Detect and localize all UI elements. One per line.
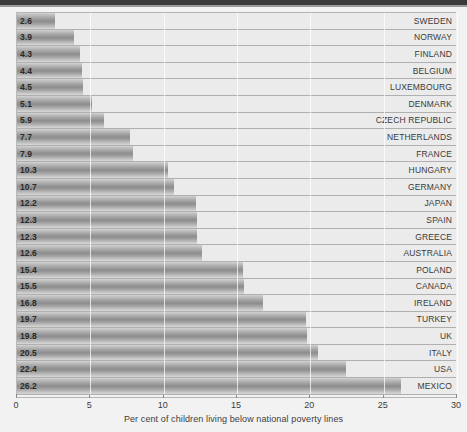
- table-row: 12.3GREECE: [17, 229, 456, 246]
- bar-value-label: 12.6: [20, 248, 37, 258]
- x-tick-label: 30: [451, 400, 461, 410]
- table-row: 15.4POLAND: [17, 262, 456, 279]
- bar: [17, 162, 168, 178]
- x-tick-label: 5: [87, 400, 92, 410]
- table-row: 10.3HUNGARY: [17, 162, 456, 179]
- category-label: JAPAN: [424, 198, 452, 208]
- bar-value-label: 4.3: [20, 49, 32, 59]
- x-tick-label: 0: [13, 400, 18, 410]
- category-label: AUSTRALIA: [403, 248, 452, 258]
- category-label: HUNGARY: [409, 165, 452, 175]
- x-tick-label: 25: [378, 400, 388, 410]
- chart-figure: 2.6SWEDEN3.9NORWAY4.3FINLAND4.4BELGIUM4.…: [0, 0, 467, 432]
- x-tick-label: 20: [304, 400, 314, 410]
- table-row: 5.1DENMARK: [17, 96, 456, 113]
- bar-value-label: 5.1: [20, 99, 32, 109]
- bar-value-label: 26.2: [20, 381, 37, 391]
- bar-value-label: 22.4: [20, 364, 37, 374]
- x-tick-label: 10: [158, 400, 168, 410]
- bar-value-label: 16.8: [20, 298, 37, 308]
- table-row: 19.8UK: [17, 328, 456, 345]
- table-row: 20.5ITALY: [17, 345, 456, 362]
- bar: [17, 262, 243, 278]
- bar-rows: 2.6SWEDEN3.9NORWAY4.3FINLAND4.4BELGIUM4.…: [17, 13, 456, 394]
- table-row: 4.3FINLAND: [17, 46, 456, 63]
- category-label: SPAIN: [426, 215, 452, 225]
- category-label: GREECE: [415, 232, 452, 242]
- category-label: NORWAY: [414, 32, 452, 42]
- bar: [17, 345, 318, 361]
- table-row: 2.6SWEDEN: [17, 13, 456, 30]
- bar: [17, 245, 202, 261]
- bar: [17, 146, 133, 162]
- bar-value-label: 5.9: [20, 115, 32, 125]
- bar: [17, 212, 197, 228]
- bar: [17, 196, 196, 212]
- category-label: TURKEY: [417, 314, 452, 324]
- category-label: ITALY: [429, 348, 452, 358]
- category-label: SWEDEN: [414, 16, 452, 26]
- table-row: 4.5LUXEMBOURG: [17, 79, 456, 96]
- bar: [17, 179, 174, 195]
- category-label: FINLAND: [415, 49, 452, 59]
- category-label: FRANCE: [416, 149, 452, 159]
- category-label: CANADA: [416, 281, 452, 291]
- bar: [17, 129, 130, 145]
- bar-value-label: 10.7: [20, 182, 37, 192]
- table-row: 4.4BELGIUM: [17, 63, 456, 80]
- category-label: IRELAND: [414, 298, 452, 308]
- bar-value-label: 10.3: [20, 165, 37, 175]
- bar-value-label: 19.8: [20, 331, 37, 341]
- bar-value-label: 7.9: [20, 149, 32, 159]
- table-row: 26.2MEXICO: [17, 378, 456, 395]
- bar-value-label: 15.4: [20, 265, 37, 275]
- table-row: 3.9NORWAY: [17, 30, 456, 47]
- table-row: 10.7GERMANY: [17, 179, 456, 196]
- bar-value-label: 20.5: [20, 348, 37, 358]
- x-axis-title: Per cent of children living below nation…: [0, 414, 467, 424]
- category-label: NETHERLANDS: [387, 132, 452, 142]
- bar-value-label: 2.6: [20, 16, 32, 26]
- table-row: 7.9FRANCE: [17, 146, 456, 163]
- table-row: 22.4USA: [17, 361, 456, 378]
- x-tick-label: 15: [231, 400, 241, 410]
- category-label: UK: [440, 331, 452, 341]
- table-row: 5.9CZECH REPUBLIC: [17, 113, 456, 130]
- bar: [17, 229, 197, 245]
- bar-value-label: 12.3: [20, 232, 37, 242]
- bar-value-label: 12.3: [20, 215, 37, 225]
- top-band-edge: [0, 5, 467, 7]
- category-label: GERMANY: [408, 182, 452, 192]
- table-row: 12.3SPAIN: [17, 212, 456, 229]
- gridline: [457, 13, 458, 394]
- bar-value-label: 4.4: [20, 66, 32, 76]
- bar: [17, 295, 263, 311]
- bar-value-label: 4.5: [20, 82, 32, 92]
- table-row: 19.7TURKEY: [17, 312, 456, 329]
- bar-value-label: 3.9: [20, 32, 32, 42]
- bar: [17, 328, 307, 344]
- bar-value-label: 15.5: [20, 281, 37, 291]
- bar-value-label: 7.7: [20, 132, 32, 142]
- category-label: LUXEMBOURG: [390, 82, 452, 92]
- bar-value-label: 19.7: [20, 314, 37, 324]
- bar: [17, 378, 401, 394]
- table-row: 16.8IRELAND: [17, 295, 456, 312]
- category-label: MEXICO: [418, 381, 452, 391]
- category-label: DENMARK: [408, 99, 452, 109]
- bar-value-label: 12.2: [20, 198, 37, 208]
- table-row: 12.2JAPAN: [17, 196, 456, 213]
- bar: [17, 312, 306, 328]
- table-row: 7.7NETHERLANDS: [17, 129, 456, 146]
- bar: [17, 361, 346, 377]
- category-label: USA: [434, 364, 452, 374]
- plot-area: 2.6SWEDEN3.9NORWAY4.3FINLAND4.4BELGIUM4.…: [16, 12, 456, 394]
- tick-mark: [456, 394, 457, 398]
- bar: [17, 279, 244, 295]
- category-label: BELGIUM: [413, 66, 452, 76]
- category-label: CZECH REPUBLIC: [376, 115, 452, 125]
- table-row: 12.6AUSTRALIA: [17, 245, 456, 262]
- table-row: 15.5CANADA: [17, 279, 456, 296]
- category-label: POLAND: [416, 265, 452, 275]
